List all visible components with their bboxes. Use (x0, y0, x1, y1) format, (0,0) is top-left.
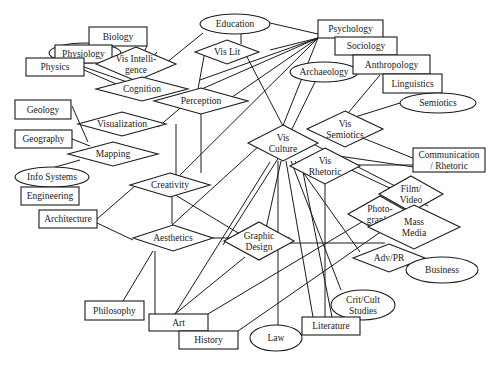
node-label: Semiotics (419, 98, 457, 108)
node-creativity: Creativity (130, 173, 210, 197)
connector-line (291, 161, 341, 290)
node-label: Studies (349, 306, 377, 316)
node-label: Graphic (244, 231, 275, 241)
node-label: / Rhetoric (430, 161, 468, 171)
node-label: Vis Lit (214, 47, 240, 57)
node-label: History (194, 335, 223, 345)
node-label: Perception (181, 96, 222, 106)
node-aesthetics: Aesthetics (133, 225, 213, 251)
node-label: gence (125, 65, 147, 75)
node-philosophy: Philosophy (85, 301, 144, 320)
node-label: Vis (277, 133, 290, 143)
node-biology: Biology (89, 27, 147, 46)
node-label: Creativity (151, 180, 189, 190)
node-label: Engineering (27, 191, 74, 201)
node-label: Design (246, 242, 273, 252)
node-label: Education (216, 19, 255, 29)
connector-line (352, 103, 400, 118)
node-archaeology: Archaeology (290, 62, 358, 82)
node-info-systems: Info Systems (15, 167, 89, 187)
node-label: Biology (103, 32, 134, 42)
node-label: Literature (312, 321, 349, 331)
node-vis-lit: Vis Lit (195, 40, 259, 64)
node-layer: NeuroscienceBiologyPhysiologyPhysicsVis … (15, 14, 485, 351)
node-geology: Geology (15, 100, 71, 119)
node-label: Business (425, 265, 459, 275)
node-vis-rhetoric: VisRhetoric (290, 148, 360, 184)
node-label: Vis (319, 156, 332, 166)
connector-line (97, 186, 135, 219)
node-label: Culture (269, 144, 298, 154)
node-label: Architecture (44, 214, 91, 224)
node-label: Sociology (347, 41, 386, 51)
node-label: Video (400, 195, 423, 205)
node-psychology: Psychology (318, 20, 383, 38)
node-mapping: Mapping (68, 142, 158, 166)
node-history: History (179, 331, 238, 349)
concept-map-diagram: NeuroscienceBiologyPhysiologyPhysicsVis … (0, 0, 497, 367)
node-vis-culture: VisCulture (248, 125, 318, 161)
connector-line (123, 251, 153, 301)
node-visualization: Visualization (78, 112, 166, 136)
node-physics: Physics (26, 58, 84, 76)
node-engineering: Engineering (21, 187, 79, 205)
node-label: Media (402, 228, 427, 238)
node-label: Mass (404, 217, 424, 227)
connector-line (198, 51, 205, 89)
node-communication-rhetoric: Communication/ Rhetoric (413, 148, 485, 172)
node-sociology: Sociology (335, 37, 397, 55)
node-label: Art (172, 318, 185, 328)
node-label: Geography (22, 134, 64, 144)
node-label: Vis Intelli- (116, 54, 157, 64)
node-linguistics: Linguistics (383, 74, 442, 93)
node-label: Adv/PR (374, 253, 405, 263)
node-crit-cult-studies: Crit/CultStudies (331, 290, 395, 320)
node-label: Cognition (123, 84, 161, 94)
node-label: Visualization (97, 119, 147, 129)
node-label: Philosophy (93, 306, 136, 316)
node-semiotics: Semiotics (400, 93, 476, 113)
concept-map-canvas: NeuroscienceBiologyPhysiologyPhysicsVis … (0, 0, 497, 367)
connector-line (270, 23, 318, 34)
node-label: Communication (418, 150, 479, 160)
node-label: Law (268, 333, 285, 343)
node-business: Business (406, 257, 478, 283)
node-label: Film/ (401, 184, 422, 194)
node-art: Art (149, 314, 208, 331)
node-label: Semiotics (326, 130, 364, 140)
node-label: Photo- (367, 204, 392, 214)
node-label: Info Systems (27, 172, 77, 182)
node-anthropology: Anthropology (353, 55, 430, 74)
node-law: Law (250, 325, 302, 351)
node-education: Education (200, 14, 270, 34)
node-label: Rhetoric (309, 167, 342, 177)
connector-line (247, 57, 283, 126)
node-label: Psychology (328, 24, 373, 34)
connector-line (290, 80, 316, 133)
node-label: Linguistics (391, 79, 434, 89)
node-label: Archaeology (299, 67, 348, 77)
node-label: Physics (40, 62, 69, 72)
node-label: Vis (339, 119, 352, 129)
node-architecture: Architecture (39, 210, 97, 228)
connector-line (175, 257, 245, 314)
node-label: Crit/Cult (346, 295, 380, 305)
node-literature: Literature (302, 317, 360, 335)
node-label: Aesthetics (153, 233, 193, 243)
node-label: Anthropology (365, 60, 419, 70)
node-label: Geology (27, 105, 60, 115)
connector-line (97, 223, 133, 240)
node-label: Mapping (96, 149, 131, 159)
node-geography: Geography (15, 130, 72, 148)
